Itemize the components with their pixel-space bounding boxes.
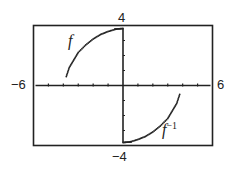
- x-max-label: 6: [217, 78, 224, 91]
- x-min-label: −6: [11, 78, 26, 91]
- graph-canvas: [0, 0, 241, 169]
- f-label: f: [68, 33, 72, 49]
- f-inverse-label: f−1: [162, 121, 177, 138]
- y-max-label: 4: [118, 11, 125, 24]
- y-min-label: −4: [112, 150, 127, 163]
